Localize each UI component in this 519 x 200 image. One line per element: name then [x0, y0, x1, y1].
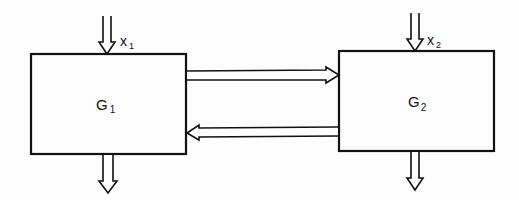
input-label-x1: x1 — [120, 33, 134, 51]
connection-g1-to-g2 — [187, 67, 339, 83]
connection-g2-to-g1 — [187, 125, 338, 140]
block-diagram: G1 G2 x1 x2 — [0, 0, 519, 200]
input-label-x2: x2 — [427, 32, 441, 50]
block-g1: G1 — [31, 54, 186, 154]
block-g1-label: G1 — [96, 96, 116, 115]
block-g2: G2 — [339, 51, 494, 151]
output-arrow-g2 — [407, 152, 423, 190]
block-g2-label: G2 — [408, 93, 427, 113]
output-arrow-g1 — [99, 155, 117, 193]
diagram-svg: G1 G2 x1 x2 — [0, 0, 519, 200]
input-arrow-x1: x1 — [99, 16, 134, 54]
input-arrow-x2: x2 — [407, 13, 441, 51]
